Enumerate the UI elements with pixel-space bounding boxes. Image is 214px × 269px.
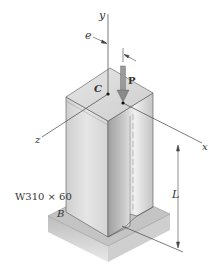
- centroid-point: [106, 92, 109, 95]
- base-point-label: B: [56, 208, 64, 219]
- column: [66, 68, 153, 237]
- x-axis-label: x: [202, 141, 208, 152]
- y-axis-label: y: [98, 9, 106, 22]
- section-label: W310 × 60: [15, 191, 72, 202]
- column-diagram: y e P C z x W310 × 60 L B: [0, 0, 214, 269]
- load-point: [121, 101, 124, 104]
- load-label: P: [128, 75, 136, 86]
- eccentricity-dimension: [93, 37, 136, 62]
- z-axis-label: z: [34, 134, 41, 145]
- eccentricity-label: e: [85, 29, 92, 42]
- length-label: L: [171, 188, 179, 201]
- centroid-label: C: [94, 83, 102, 94]
